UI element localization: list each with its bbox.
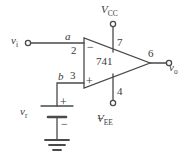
- node-label-a: a: [65, 31, 71, 42]
- output-signal-subscript: o: [174, 67, 178, 76]
- positive-supply-label: VCC: [101, 4, 118, 18]
- input-signal-subscript: i: [16, 40, 18, 49]
- negative-supply-subscript: EE: [104, 118, 113, 127]
- pin-number-4: 4: [117, 86, 123, 97]
- positive-supply-terminal-node[interactable]: [110, 21, 115, 26]
- positive-supply-symbol: V: [101, 3, 108, 15]
- reference-source-label: vr: [20, 106, 27, 120]
- input-signal-label: vi: [11, 35, 18, 49]
- pin-number-6: 6: [148, 48, 154, 59]
- negative-supply-label: −VEE: [97, 113, 113, 127]
- negative-supply-terminal-node[interactable]: [110, 100, 115, 105]
- inverting-input-sign: −: [87, 41, 94, 53]
- positive-supply-subscript: CC: [108, 9, 118, 18]
- pin-number-2: 2: [71, 45, 77, 56]
- pin-number-7: 7: [117, 37, 123, 48]
- negative-supply-prefix: −: [97, 113, 103, 124]
- noninverting-input-sign: +: [86, 75, 93, 87]
- pin-number-3: 3: [70, 70, 76, 81]
- battery-negative-sign: −: [61, 118, 68, 130]
- node-label-b: b: [58, 71, 64, 82]
- circuit-schematic-canvas: [0, 0, 186, 160]
- output-signal-label: vo: [169, 62, 178, 76]
- opamp-circuit-diagram: vi vo vr VCC −VEE a b 2 3 7 4 6 741 − + …: [0, 0, 186, 160]
- reference-source-subscript: r: [25, 111, 28, 120]
- opamp-part-number-label: 741: [96, 56, 113, 67]
- input-terminal-node[interactable]: [25, 40, 30, 45]
- battery-positive-sign: +: [60, 96, 67, 108]
